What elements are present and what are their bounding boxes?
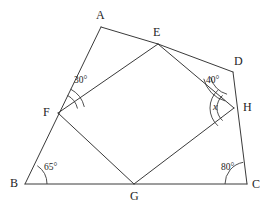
angle-at-H-label: x xyxy=(213,102,217,112)
angle-at-F-arc xyxy=(71,89,85,107)
segment-ef xyxy=(58,44,158,113)
geometry-canvas xyxy=(0,0,271,209)
segment-dc xyxy=(233,72,247,184)
vertex-label-d: D xyxy=(234,55,243,67)
angle-arcs-group xyxy=(37,77,243,184)
vertex-label-e: E xyxy=(153,26,160,38)
vertex-label-g: G xyxy=(130,190,139,202)
vertex-label-h: H xyxy=(243,101,252,113)
angle-at-F-arc xyxy=(67,95,77,108)
angle-at-C-label: 80° xyxy=(221,163,234,173)
segment-ae xyxy=(101,27,158,44)
segment-he xyxy=(158,44,234,108)
angle-at-F-label: 30° xyxy=(74,76,87,86)
vertex-label-f: F xyxy=(43,106,50,118)
angle-at-D-label: 40° xyxy=(206,76,219,86)
geometry-diagram: AEDHCGBF 30°40°x65°80° xyxy=(0,0,271,209)
vertex-label-c: C xyxy=(252,178,260,190)
vertex-label-a: A xyxy=(96,9,105,21)
segment-ba xyxy=(25,27,101,184)
segment-fg xyxy=(58,113,134,184)
segment-gh xyxy=(134,108,234,184)
segment-ed xyxy=(158,44,233,72)
angle-at-B-label: 65° xyxy=(44,163,57,173)
vertex-label-b: B xyxy=(10,177,18,189)
